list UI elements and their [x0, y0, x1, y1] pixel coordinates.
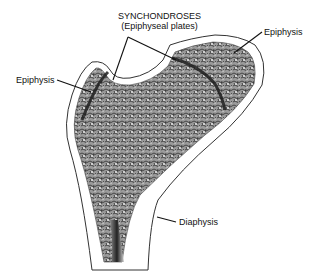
- synchondroses-label: SYNCHONDROSES (Epiphyseal plates): [118, 11, 201, 31]
- bone-diagram: [0, 0, 322, 273]
- synchondroses-label-line1: SYNCHONDROSES: [118, 11, 201, 21]
- diaphysis-label: Diaphysis: [179, 217, 218, 227]
- epiphysis-left-label: Epiphysis: [16, 75, 55, 85]
- synchondroses-label-line2: (Epiphyseal plates): [118, 21, 201, 31]
- leader-line-synchondroses-left: [113, 37, 128, 80]
- epiphysis-right-label: Epiphysis: [264, 27, 303, 37]
- leader-line-diaphysis: [157, 217, 176, 222]
- spongy-bone: [74, 42, 255, 262]
